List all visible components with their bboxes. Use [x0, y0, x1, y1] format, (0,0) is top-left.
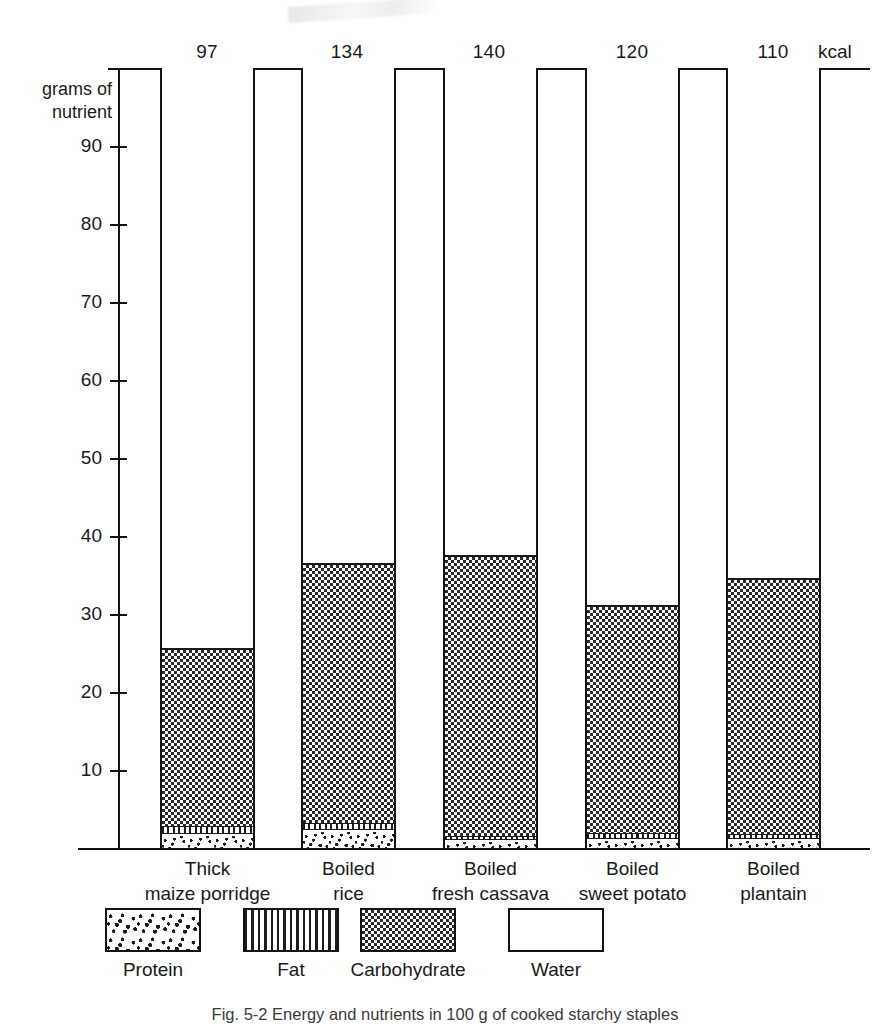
bar-segment-protein [303, 830, 394, 848]
legend-label-carbohydrate: Carbohydrate [333, 959, 483, 981]
bar-segment-carbohydrate [587, 605, 678, 834]
bar-boiled-fresh-cassava[interactable] [443, 68, 538, 848]
bar-segment-protein [445, 840, 536, 848]
category-label-line1: Boiled [464, 858, 517, 879]
legend: Protein Fat Carbohydrate Water [0, 908, 890, 988]
category-label-5: Boiledplantain [679, 856, 869, 906]
bar-segment-water [728, 68, 819, 578]
bar-segment-fat [728, 834, 819, 839]
bar-boiled-sweet-potato[interactable] [585, 68, 680, 848]
bar-segment-water [587, 68, 678, 605]
bar-segment-water [303, 68, 394, 563]
legend-swatch-carbohydrate [360, 908, 456, 952]
x-axis-baseline [78, 848, 870, 850]
bar-segment-fat [587, 833, 678, 838]
legend-item-water: Water [508, 908, 604, 981]
bar-thick-maize-porridge[interactable] [160, 68, 255, 848]
bar-segment-protein [728, 839, 819, 848]
legend-label-water: Water [508, 959, 604, 981]
legend-label-fat: Fat [243, 959, 339, 981]
bar-segment-carbohydrate [303, 563, 394, 823]
bar-segment-fat [303, 823, 394, 830]
bar-segment-water [445, 68, 536, 555]
legend-label-protein: Protein [105, 959, 201, 981]
bar-segment-carbohydrate [728, 578, 819, 834]
plot-area [0, 0, 890, 848]
figure-caption: Fig. 5-2 Energy and nutrients in 100 g o… [0, 1004, 890, 1024]
bar-boiled-plantain[interactable] [726, 68, 821, 848]
legend-swatch-fat [243, 908, 339, 952]
legend-item-protein: Protein [105, 908, 201, 981]
legend-item-fat: Fat [243, 908, 339, 981]
category-label-line1: Boiled [747, 858, 800, 879]
bar-segment-carbohydrate [162, 648, 253, 826]
bar-segment-fat [445, 836, 536, 841]
legend-swatch-water [508, 908, 604, 952]
category-label-line2: plantain [679, 881, 869, 906]
category-label-line1: Boiled [606, 858, 659, 879]
bar-segment-protein [162, 834, 253, 848]
category-label-line1: Boiled [322, 858, 375, 879]
legend-swatch-protein [105, 908, 201, 952]
bar-boiled-rice[interactable] [301, 68, 396, 848]
bar-segment-fat [162, 826, 253, 834]
category-label-line1: Thick [185, 858, 230, 879]
legend-item-carbohydrate: Carbohydrate [360, 908, 483, 981]
bar-segment-protein [587, 839, 678, 848]
bar-segment-carbohydrate [445, 555, 536, 836]
bar-segment-water [162, 68, 253, 648]
